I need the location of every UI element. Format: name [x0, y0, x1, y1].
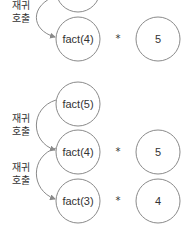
value-node-label: 5: [155, 33, 161, 45]
value-node-1-label: 5: [155, 146, 161, 158]
recursion-diagram: 재귀 호출 fact(4) * 5 fact(5) 재귀 호출 fact(4) …: [0, 0, 193, 231]
call-node-1-label: fact(4): [62, 146, 93, 158]
call-label-2-line2: 호출: [12, 175, 30, 186]
multiply-operator-1: *: [116, 146, 121, 157]
call-label-1-line2: 호출: [12, 126, 30, 137]
call-label-line1: 재귀: [12, 0, 30, 11]
call-label-2-line1: 재귀: [12, 162, 30, 173]
recursive-call-arrow-1: [36, 100, 56, 150]
root-call-node-label: fact(5): [62, 98, 93, 110]
recursive-call-arrow: [36, 0, 56, 37]
multiply-operator-2: *: [116, 195, 121, 206]
bottom-section: fact(5) 재귀 호출 fact(4) * 5 재귀 호출 fact(3) …: [12, 82, 180, 223]
value-node-2-label: 4: [155, 195, 161, 207]
call-label-1-line1: 재귀: [12, 113, 30, 124]
call-node-2-label: fact(3): [62, 195, 93, 207]
call-node-label: fact(4): [62, 33, 93, 45]
top-section: 재귀 호출 fact(4) * 5: [12, 0, 180, 61]
call-label-line2: 호출: [12, 13, 30, 24]
multiply-operator: *: [116, 33, 121, 44]
recursive-call-arrow-2: [36, 148, 56, 199]
partial-node: [56, 0, 100, 12]
